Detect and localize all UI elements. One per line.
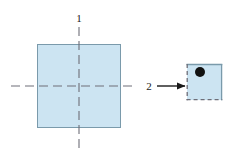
label-1: 1 xyxy=(76,12,82,24)
figure-canvas: 1 2 xyxy=(0,0,240,153)
label-2: 2 xyxy=(146,80,152,92)
diagram-svg: 1 2 xyxy=(0,0,240,153)
dot-marker xyxy=(195,67,205,77)
small-square xyxy=(187,64,222,100)
